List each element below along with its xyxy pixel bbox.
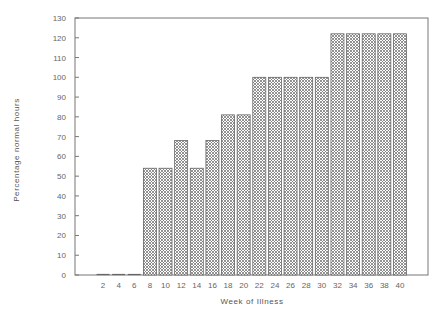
- bars: [97, 34, 407, 275]
- x-tick-label: 40: [396, 281, 405, 290]
- x-tick-label: 4: [116, 281, 121, 290]
- y-tick-label: 110: [53, 54, 66, 63]
- bar: [237, 115, 250, 275]
- y-tick-label: 0: [62, 271, 67, 280]
- x-tick-label: 8: [148, 281, 153, 290]
- x-tick-label: 18: [224, 281, 233, 290]
- x-tick-label: 26: [286, 281, 295, 290]
- bar: [190, 168, 203, 275]
- bar: [143, 168, 156, 275]
- y-tick-label: 100: [53, 73, 67, 82]
- bar: [159, 168, 172, 275]
- bar: [378, 34, 391, 275]
- y-tick-label: 30: [57, 212, 66, 221]
- y-tick-label: 40: [57, 192, 66, 201]
- bar: [331, 34, 344, 275]
- x-tick-label: 2: [101, 281, 106, 290]
- x-axis: 246810121416182022242628303234363840: [101, 281, 405, 290]
- x-tick-label: 14: [192, 281, 201, 290]
- bar: [222, 115, 235, 275]
- bar: [393, 34, 406, 275]
- bar: [315, 77, 328, 275]
- bar: [268, 77, 281, 275]
- bar: [347, 34, 360, 275]
- y-tick-label: 20: [57, 231, 66, 240]
- x-tick-label: 20: [239, 281, 248, 290]
- x-tick-label: 36: [364, 281, 373, 290]
- x-tick-label: 30: [317, 281, 326, 290]
- y-tick-label: 70: [57, 133, 66, 142]
- bar-chart: 0102030405060708090100110120130 24681012…: [0, 0, 445, 319]
- x-axis-title: Week of Illness: [220, 297, 283, 306]
- x-tick-label: 32: [333, 281, 342, 290]
- bar: [175, 141, 188, 275]
- y-tick-label: 10: [57, 251, 66, 260]
- x-tick-label: 12: [177, 281, 186, 290]
- y-tick-label: 60: [57, 152, 66, 161]
- x-tick-label: 22: [255, 281, 264, 290]
- bar: [206, 141, 219, 275]
- y-tick-label: 90: [57, 93, 66, 102]
- bar: [362, 34, 375, 275]
- x-tick-label: 6: [132, 281, 137, 290]
- y-tick-label: 120: [53, 34, 67, 43]
- x-tick-label: 24: [270, 281, 279, 290]
- x-tick-label: 10: [161, 281, 170, 290]
- x-tick-label: 28: [302, 281, 311, 290]
- x-tick-label: 38: [380, 281, 389, 290]
- bar: [300, 77, 313, 275]
- bar: [284, 77, 297, 275]
- y-tick-label: 50: [57, 172, 66, 181]
- bar: [253, 77, 266, 275]
- x-tick-label: 16: [208, 281, 217, 290]
- y-axis-title: Percentage normal hours: [12, 98, 21, 202]
- y-tick-label: 130: [53, 14, 67, 23]
- x-tick-label: 34: [349, 281, 358, 290]
- y-tick-label: 80: [57, 113, 66, 122]
